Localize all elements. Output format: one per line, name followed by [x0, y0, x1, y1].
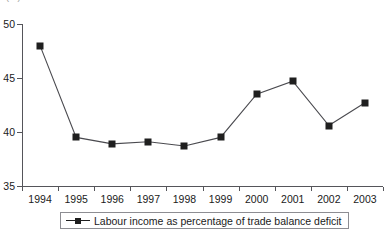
x-tick-label: 1996	[94, 194, 130, 205]
data-point-marker	[289, 78, 296, 85]
data-point-marker	[181, 143, 188, 150]
y-tick-mark	[17, 132, 22, 133]
data-point-marker	[253, 91, 260, 98]
y-tick-mark	[17, 78, 22, 79]
data-point-marker	[109, 140, 116, 147]
data-point-marker	[73, 134, 80, 141]
x-tick-mark	[347, 187, 348, 191]
data-point-marker	[37, 42, 44, 49]
x-tick-label: 1998	[166, 194, 202, 205]
square-marker-icon	[66, 216, 90, 225]
x-tick-label: 2001	[275, 194, 311, 205]
y-axis-unit-label: (%)	[6, 0, 21, 2]
y-axis-line	[22, 24, 23, 187]
x-tick-mark	[22, 187, 23, 191]
y-tick-label: 50	[0, 19, 15, 30]
x-tick-mark	[94, 187, 95, 191]
x-tick-label: 1995	[58, 194, 94, 205]
x-tick-mark	[275, 187, 276, 191]
x-tick-label: 1997	[130, 194, 166, 205]
data-point-marker	[361, 99, 368, 106]
data-point-marker	[145, 138, 152, 145]
x-tick-mark	[58, 187, 59, 191]
x-tick-mark	[383, 187, 384, 191]
y-tick-label: 45	[0, 73, 15, 84]
y-tick-mark	[17, 24, 22, 25]
data-point-marker	[325, 122, 332, 129]
x-tick-mark	[166, 187, 167, 191]
y-tick-label-text: 35	[0, 181, 15, 192]
chart-legend: Labour income as percentage of trade bal…	[60, 212, 349, 229]
legend-entry-label: Labour income as percentage of trade bal…	[94, 215, 342, 227]
x-tick-mark	[130, 187, 131, 191]
x-tick-label: 1994	[22, 194, 58, 205]
y-tick-label: 40	[0, 127, 15, 138]
x-tick-mark	[239, 187, 240, 191]
line-chart: (%) 50454035 199419951996199719981999200…	[0, 0, 385, 231]
data-point-marker	[217, 134, 224, 141]
y-tick-label-text: 45	[0, 73, 15, 84]
y-tick-label-text: 50	[0, 19, 15, 30]
x-tick-label: 2002	[311, 194, 347, 205]
y-tick-label: 35	[0, 181, 15, 192]
x-tick-mark	[311, 187, 312, 191]
x-tick-label: 2003	[347, 194, 383, 205]
x-tick-mark	[203, 187, 204, 191]
x-tick-label: 2000	[239, 194, 275, 205]
x-tick-label: 1999	[203, 194, 239, 205]
y-tick-label-text: 40	[0, 127, 15, 138]
